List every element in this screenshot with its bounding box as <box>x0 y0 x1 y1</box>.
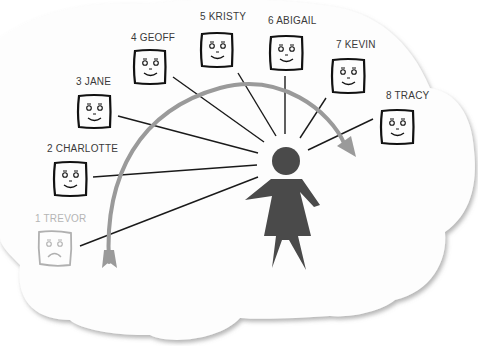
label-abigail: 6 ABIGAIL <box>268 15 317 26</box>
label-trevor: 1 TREVOR <box>35 213 86 224</box>
cloud-background <box>0 0 475 340</box>
label-kristy: 5 KRISTY <box>200 11 246 22</box>
label-charlotte: 2 CHARLOTTE <box>47 143 118 154</box>
label-geoff: 4 GEOFF <box>131 32 175 43</box>
label-tracy: 8 TRACY <box>386 90 429 101</box>
label-jane: 3 JANE <box>76 76 111 87</box>
label-kevin: 7 KEVIN <box>336 39 376 50</box>
diagram-svg <box>0 0 478 346</box>
diagram-canvas: 1 TREVOR 2 CHARLOTTE 3 JANE 4 GEOFF 5 KR… <box>0 0 478 346</box>
